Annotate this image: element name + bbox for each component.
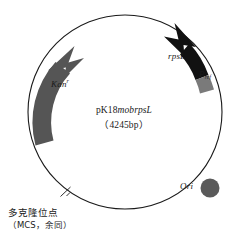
plasmid-center-label: pK18mobrpsL （4245bp） [0,105,248,131]
mcs-annotation-line1: 多克隆位点 [8,207,72,220]
ori-marker-dot [201,179,220,198]
plasmid-name: pK18mobrpsL [0,105,248,115]
promoter-label: Pref [199,69,211,79]
kan-label: Kanr [51,79,69,89]
plasmid-size: （4245bp） [0,117,248,131]
mcs-tick-slash-2 [67,193,71,197]
mcs-annotation: 多克隆位点 （MCS，余同） [8,207,72,231]
plasmid-name-italic: mobrpsL [118,105,153,115]
mcs-annotation-line2: （MCS，余同） [8,220,72,231]
plasmid-name-prefix: pK18 [96,105,118,115]
ori-label: Ori [180,181,193,191]
rpsl-label: rpsL [168,51,185,61]
plasmid-map-figure: Kanr rpsL Pref Ori pK18mobrpsL （4245bp） … [0,0,248,249]
